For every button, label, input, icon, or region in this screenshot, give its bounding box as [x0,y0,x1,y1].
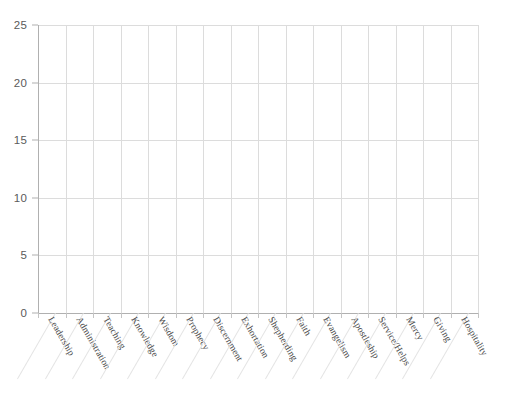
gridline-vertical [368,25,369,313]
gridline-vertical [203,25,204,313]
gridline-vertical [93,25,94,313]
x-axis-category-label: Hospitality [459,315,489,358]
x-axis-category-label: Teaching [101,315,127,351]
x-axis-category-label: Exhortation [239,315,271,360]
x-axis-category-label: Mercy [404,315,425,342]
y-axis-tick-label: 10 [14,192,27,204]
y-axis-tick-label: 15 [14,134,27,146]
y-axis-tick-label: 5 [20,249,27,261]
y-axis: 0510152025 [0,0,38,397]
gridline-vertical [121,25,122,313]
x-axis-category-label: Faith [294,315,313,337]
x-axis-category-label: Giving [431,315,453,343]
gridline-vertical [313,25,314,313]
y-axis-tick-label: 0 [20,307,27,319]
x-axis-category-label: Wisdom [156,315,181,348]
x-axis-category-label: Apostleship [349,315,381,360]
gridline-vertical [148,25,149,313]
x-axis-category-label: Evangelism [321,315,353,360]
gridline-vertical [478,25,479,313]
gridline-vertical [231,25,232,313]
plot-area [38,25,478,313]
y-axis-tick-mark [32,255,38,256]
y-axis-tick-mark [32,197,38,198]
gridline-vertical [451,25,452,313]
gridline-vertical [176,25,177,313]
y-axis-line [38,25,39,313]
gridline-vertical [66,25,67,313]
gridline-vertical [423,25,424,313]
gridline-vertical [258,25,259,313]
y-axis-tick-mark [32,140,38,141]
bar-chart: 0510152025 LeadershipAdministrationTeach… [0,0,517,397]
y-axis-tick-label: 25 [14,19,27,31]
x-axis-category-label: Knowledge [129,315,160,359]
y-axis-tick-label: 20 [14,77,27,89]
y-axis-tick-mark [32,82,38,83]
y-axis-tick-mark [32,25,38,26]
x-axis-category-labels: LeadershipAdministrationTeachingKnowledg… [38,313,517,397]
gridline-vertical [286,25,287,313]
gridline-vertical [341,25,342,313]
gridline-vertical [396,25,397,313]
